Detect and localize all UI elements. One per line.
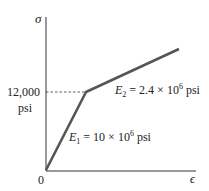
origin-label: 0: [38, 174, 44, 186]
y-tick-unit: psi: [18, 102, 32, 114]
e2-annotation: E2 = 2.4 × 106 psi: [115, 84, 200, 96]
y-tick-value: 12,000: [7, 86, 40, 98]
e1-annotation: E1 = 10 × 106 psi: [69, 131, 151, 143]
sigma-label: σ: [35, 12, 41, 25]
epsilon-label: ϵ: [190, 173, 195, 185]
stress-strain-curve: [46, 49, 179, 170]
